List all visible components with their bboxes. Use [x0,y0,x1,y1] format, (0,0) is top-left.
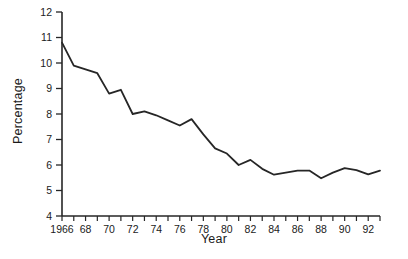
data-series-line [62,43,380,179]
line-chart: 456789101112 196668707274767880828486889… [0,0,408,259]
chart-plot-area: 456789101112 196668707274767880828486889… [0,0,408,259]
x-axis-title: Year [0,232,408,246]
y-axis-tick-label: 5 [46,184,52,196]
y-axis-tick-label: 6 [46,159,52,171]
y-axis-title: Percentage [11,66,25,156]
y-axis-tick-label: 11 [41,31,52,43]
y-axis-tick-label: 10 [40,57,52,69]
y-axis: 456789101112 [40,6,62,222]
y-axis-tick-label: 7 [46,133,52,145]
series-line-percentage [62,43,380,179]
y-axis-tick-label: 9 [46,82,52,94]
y-axis-tick-label: 12 [40,6,52,18]
y-axis-tick-label: 8 [46,108,52,120]
y-axis-tick-label: 4 [46,210,52,222]
